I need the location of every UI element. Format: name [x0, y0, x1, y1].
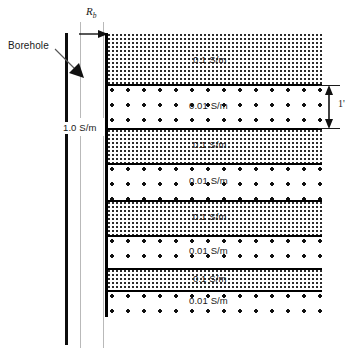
formation-layer-label: 0.01 S/m: [188, 246, 229, 256]
bed-thickness-arrow: [322, 85, 336, 129]
formation-layer-label: 0.01 S/m: [188, 176, 229, 186]
borehole-leader-arrow: [54, 48, 88, 82]
diagram-canvas: Rb Borehole 1.0 S/m 0.1 S/m 0.01 S/m 0.1…: [0, 0, 350, 352]
formation-layer-label: 0.1 S/m: [192, 55, 227, 65]
bed-thickness-label: 1': [338, 99, 345, 109]
formation-layer-label: 0.1 S/m: [192, 212, 227, 222]
borehole-conductivity-label: 1.0 S/m: [61, 122, 98, 134]
formation-layer-label: 0.1 S/m: [192, 274, 227, 284]
borehole-label: Borehole: [8, 41, 49, 51]
witness-line-formation-wall-lower: [103, 136, 104, 348]
witness-line-borehole-axis-lower: [80, 136, 81, 348]
formation-layer-label: 0.01 S/m: [188, 296, 229, 306]
formation-layer-label: 0.01 S/m: [188, 101, 229, 111]
borehole-radius-label: Rb: [86, 6, 97, 20]
formation-layer-label: 0.1 S/m: [192, 140, 227, 150]
